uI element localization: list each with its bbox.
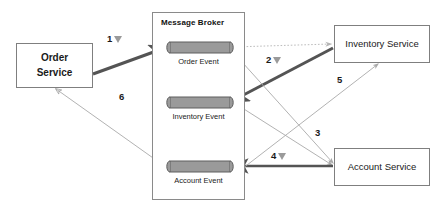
step-6-number: 6 [119,91,124,102]
node-inventory-service[interactable]: Inventory Service [334,25,430,63]
queue-inventory-event-shape[interactable] [166,96,234,109]
step-5-number: 5 [337,74,342,85]
down-triangle-icon [278,153,286,160]
step-2-number: 2 [266,54,271,65]
connector-order-event-to-account-service [233,52,333,163]
queue-inventory-event-label: Inventory Event [152,112,245,121]
step-label-1: 1 [107,33,122,44]
connector-2-inventory-service-to-inventory-event [232,48,333,101]
node-account-service[interactable]: Account Service [334,148,430,186]
node-account-service-label: Account Service [348,160,417,174]
node-inventory-service-label: Inventory Service [345,37,418,51]
diagram-canvas: Order Service Inventory Service Account … [0,0,444,213]
queue-order-event-label: Order Event [152,57,245,66]
node-order-service-label-line2: Service [37,66,73,81]
message-broker-title: Message Broker [161,18,224,27]
queue-account-event-label: Account Event [152,176,245,185]
step-3-number: 3 [315,127,320,138]
node-order-service[interactable]: Order Service [16,43,93,88]
queue-account-event-shape[interactable] [166,160,234,173]
step-label-4: 4 [271,150,286,161]
step-label-3: 3 [315,127,320,138]
node-order-service-label-line1: Order [41,51,68,66]
step-1-number: 1 [107,33,112,44]
step-label-5: 5 [337,74,342,85]
step-label-6: 6 [119,91,124,102]
step-4-number: 4 [271,150,276,161]
step-label-2: 2 [266,54,281,65]
down-triangle-icon [114,36,122,43]
down-triangle-icon [273,57,281,64]
connector-5-order-event-to-inventory-service [233,44,331,47]
queue-order-event-shape[interactable] [166,41,234,54]
